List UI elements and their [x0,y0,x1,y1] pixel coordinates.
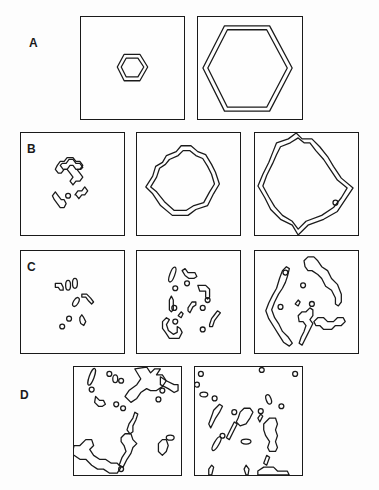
panel-c3 [254,250,359,354]
panel-d2 [194,366,303,476]
cluster-shape [137,133,240,235]
row-label-a: A [29,36,38,50]
small-hexagon-shape [81,17,184,119]
cluster-shape [255,133,358,235]
row-label-d: D [20,388,29,402]
scattered-fragments [195,367,302,475]
cluster-shape [21,133,124,235]
panel-a2 [197,16,303,120]
panel-b1: B [20,132,125,236]
large-hexagon-shape [198,17,302,119]
fragment-shapes [137,251,240,353]
fragment-shapes [21,251,124,353]
panel-a1 [80,16,185,120]
panel-c2 [136,250,241,354]
panel-c1: C [20,250,125,354]
panel-d1 [73,366,182,476]
panel-b3 [254,132,359,236]
scattered-fragments [74,367,181,475]
panel-b2 [136,132,241,236]
fragment-shapes [255,251,358,353]
